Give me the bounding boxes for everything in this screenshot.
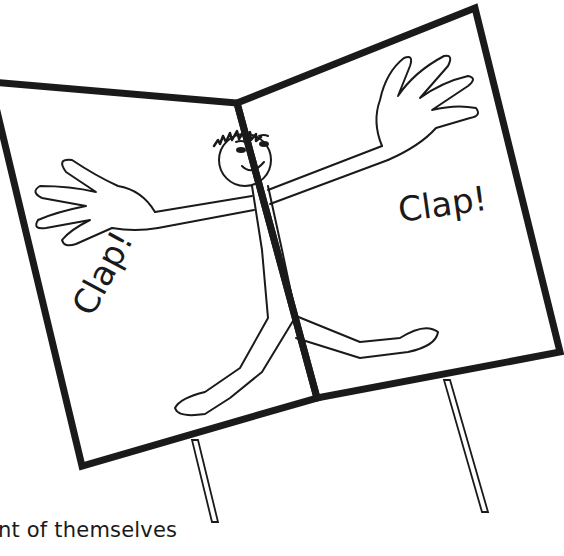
left-hand — [35, 160, 158, 246]
torso-right — [268, 186, 296, 316]
left-arm — [155, 196, 254, 228]
left-stick — [192, 440, 218, 522]
right-arm — [268, 146, 388, 204]
fold-line — [237, 103, 258, 186]
right-eye — [260, 142, 268, 146]
right-stick — [444, 380, 488, 512]
left-eye — [237, 148, 245, 152]
support-sticks — [192, 380, 488, 522]
left-panel — [0, 82, 317, 466]
caption-text: nt of themselves — [0, 518, 177, 542]
right-hand — [376, 56, 478, 160]
right-brow — [259, 135, 268, 136]
clap-card-illustration: Clap! Clap! — [0, 0, 564, 556]
left-brow — [236, 141, 245, 142]
right-clap-text: Clap! — [396, 178, 490, 230]
left-clap-text: Clap! — [64, 224, 141, 322]
hair — [214, 131, 261, 146]
